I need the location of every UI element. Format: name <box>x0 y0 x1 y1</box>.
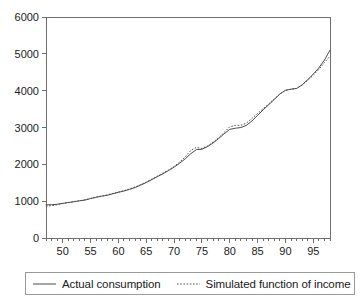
legend-item-simulated-function-of-income: Simulated function of income <box>177 278 351 290</box>
x-tick-label: 75 <box>196 245 208 257</box>
x-tick-label: 85 <box>251 245 263 257</box>
x-tick-label: 55 <box>84 245 96 257</box>
legend-label-simulated-function-of-income: Simulated function of income <box>206 278 351 290</box>
dotted-line-swatch-icon <box>177 280 200 288</box>
x-tick-label: 50 <box>57 245 69 257</box>
x-tick-label: 70 <box>168 245 180 257</box>
y-tick-label: 5000 <box>15 48 39 60</box>
x-tick-label: 95 <box>307 245 319 257</box>
solid-line-swatch-icon <box>33 280 56 288</box>
legend-item-actual-consumption: Actual consumption <box>33 278 161 290</box>
x-tick-label: 65 <box>140 245 152 257</box>
plot-frame <box>46 17 330 238</box>
x-tick-label: 60 <box>112 245 124 257</box>
y-axis-ticks: 0100020003000400050006000 <box>15 11 46 244</box>
y-tick-label: 3000 <box>15 122 39 134</box>
chart-legend: Actual consumption Simulated function of… <box>25 272 355 295</box>
series-line-simulated-function-of-income <box>46 56 330 206</box>
legend-label-actual-consumption: Actual consumption <box>62 278 161 290</box>
data-series-group <box>46 50 330 206</box>
y-tick-label: 1000 <box>15 195 39 207</box>
line-chart-plot: 0100020003000400050006000 50556065707580… <box>0 0 364 305</box>
y-tick-label: 2000 <box>15 158 39 170</box>
chart-axes <box>46 17 330 238</box>
chart-figure: 0100020003000400050006000 50556065707580… <box>0 0 364 305</box>
y-tick-label: 4000 <box>15 85 39 97</box>
x-tick-label: 90 <box>279 245 291 257</box>
x-tick-label: 80 <box>224 245 236 257</box>
series-line-actual-consumption <box>46 50 330 205</box>
y-tick-label: 6000 <box>15 11 39 23</box>
y-tick-label: 0 <box>33 232 39 244</box>
